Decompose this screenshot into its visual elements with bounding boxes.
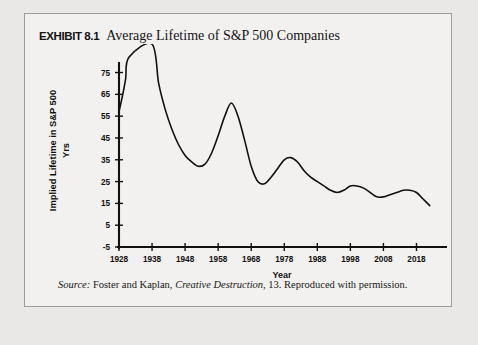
y-tick-label: 55	[101, 112, 111, 121]
y-tick-label: 15	[101, 199, 111, 208]
y-tick-label: 45	[101, 134, 111, 143]
y-tick-label: 5	[105, 221, 110, 230]
x-tick-label: 1948	[176, 255, 195, 264]
y-tick-label: 35	[101, 156, 111, 165]
x-tick-label: 2018	[407, 255, 426, 264]
y-tick-label: 75	[101, 69, 111, 78]
x-tick-label: 1958	[209, 255, 228, 264]
page-root: EXHIBIT 8.1Average Lifetime of S&P 500 C…	[0, 0, 478, 345]
data-series-line	[119, 43, 430, 205]
source-work-title: Creative Destruction	[175, 279, 263, 290]
x-tick-label: 2008	[374, 255, 393, 264]
x-tick-label: 1978	[275, 255, 294, 264]
chart-canvas: Implied Lifetime in S&P 500Yrs -55152535…	[25, 14, 453, 308]
source-author: Foster and Kaplan,	[93, 279, 173, 290]
source-note: Source: Foster and Kaplan, Creative Dest…	[58, 279, 407, 290]
exhibit-panel: EXHIBIT 8.1Average Lifetime of S&P 500 C…	[24, 13, 452, 307]
y-tick-label: 25	[101, 178, 111, 187]
x-tick-label: 1928	[110, 255, 129, 264]
line-chart: Implied Lifetime in S&P 500Yrs -55152535…	[25, 14, 453, 308]
x-tick-label: 1998	[341, 255, 360, 264]
y-axis-title-line: Implied Lifetime in S&P 500	[48, 90, 58, 211]
y-axis-title: Implied Lifetime in S&P 500Yrs	[48, 90, 71, 211]
x-tick-label: 1968	[242, 255, 261, 264]
source-prefix: Source:	[58, 279, 90, 290]
y-tick-label: -5	[103, 243, 111, 252]
y-axis-title-line: Yrs	[61, 143, 71, 158]
y-tick-label: 65	[101, 90, 111, 99]
x-tick-label: 1988	[308, 255, 327, 264]
x-tick-label: 1938	[143, 255, 162, 264]
source-rest: , 13. Reproduced with permission.	[263, 279, 407, 290]
